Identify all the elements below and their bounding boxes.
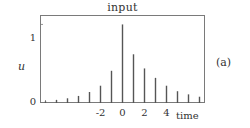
y-axis-label: u (18, 61, 25, 72)
x-axis-tick-label: 4 (159, 108, 175, 118)
stem-plot-area (40, 15, 205, 103)
x-axis-tick-label: 0 (115, 108, 131, 118)
x-axis-tick-label: 2 (137, 108, 153, 118)
figure-panel-a: input 1 0 u -2024 time (a) (0, 0, 250, 128)
chart-title: input (40, 1, 205, 14)
x-axis-tick-label: -2 (93, 108, 109, 118)
y-tick-label-1: 1 (22, 33, 36, 43)
y-tick-label-0: 0 (22, 97, 36, 107)
x-axis-label: time (176, 110, 199, 121)
panel-label: (a) (216, 57, 231, 69)
